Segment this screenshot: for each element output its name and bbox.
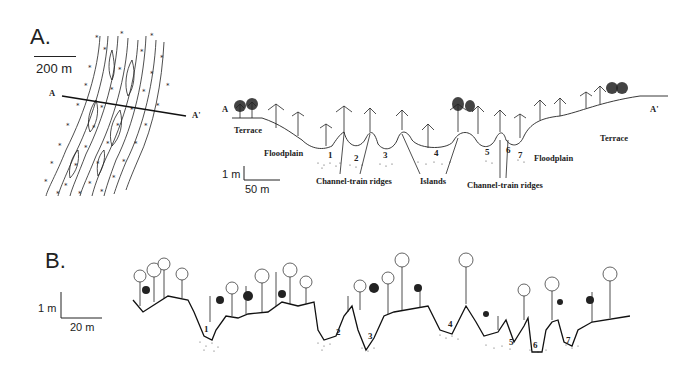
- cross-section-b: [0, 0, 678, 376]
- channel-b-3: 3: [368, 331, 373, 341]
- channel-b-5: 5: [509, 337, 514, 347]
- channel-b-4: 4: [448, 319, 453, 329]
- channel-b-6: 6: [533, 340, 538, 350]
- channel-b-7: 7: [566, 335, 571, 345]
- channel-b-1: 1: [204, 324, 209, 334]
- channel-b-2: 2: [336, 327, 341, 337]
